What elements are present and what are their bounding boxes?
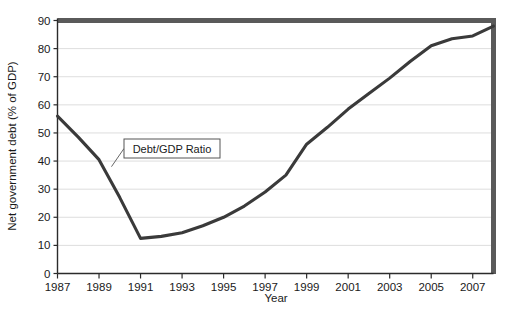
y-tick-label-90: 90 <box>38 15 51 27</box>
x-tick-label-2001: 2001 <box>335 281 361 293</box>
x-tick-label-1991: 1991 <box>128 281 154 293</box>
y-tick-label-10: 10 <box>38 239 51 251</box>
y-tick-label-30: 30 <box>38 183 51 195</box>
x-tick-label-1987: 1987 <box>45 281 71 293</box>
y-axis-title: Net government debt (% of GDP) <box>6 61 18 231</box>
y-tick-label-70: 70 <box>38 71 51 83</box>
x-tick-label-2003: 2003 <box>377 281 403 293</box>
plot-frame-right-band <box>491 18 496 274</box>
debt-gdp-line-chart: 0102030405060708090 19871989199119931995… <box>0 0 505 323</box>
x-axis-title: Year <box>264 292 287 304</box>
plot-frame-top-band <box>58 18 494 23</box>
x-tick-label-1997: 1997 <box>252 281 278 293</box>
y-tick-label-50: 50 <box>38 127 51 139</box>
x-tick-label-1995: 1995 <box>211 281 237 293</box>
x-tick-label-1989: 1989 <box>86 281 112 293</box>
y-tick-label-40: 40 <box>38 155 51 167</box>
y-tick-label-60: 60 <box>38 99 51 111</box>
annotation-label-0: Debt/GDP Ratio <box>133 143 212 155</box>
x-tick-label-1993: 1993 <box>169 281 195 293</box>
x-tick-label-2007: 2007 <box>460 281 486 293</box>
x-tick-label-2005: 2005 <box>418 281 444 293</box>
y-tick-label-80: 80 <box>38 43 51 55</box>
y-tick-label-20: 20 <box>38 211 51 223</box>
y-tick-label-0: 0 <box>44 268 50 280</box>
x-tick-label-1999: 1999 <box>294 281 320 293</box>
chart-figure: 0102030405060708090 19871989199119931995… <box>0 0 505 323</box>
